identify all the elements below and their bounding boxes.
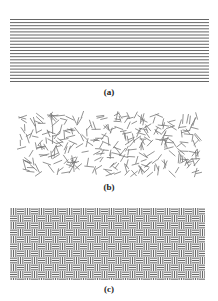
- basket-weave-graphic: [10, 208, 205, 280]
- panel-c-woven-fibers: [10, 208, 205, 280]
- panel-a-aligned-fibers: [10, 19, 209, 82]
- panel-b-label: (b): [0, 182, 218, 192]
- panel-c-label: (c): [0, 284, 218, 294]
- random-segments-graphic: [17, 111, 204, 178]
- panel-b-random-fibers: [17, 111, 204, 178]
- aligned-lines-graphic: [10, 19, 209, 82]
- panel-a-label: (a): [0, 87, 218, 97]
